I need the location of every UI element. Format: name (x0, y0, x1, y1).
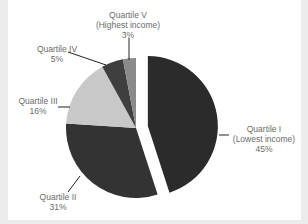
label-text: Quartile III (10, 96, 66, 106)
label-quartile-4: Quartile IV 5% (30, 44, 84, 64)
label-value: 45% (229, 144, 299, 154)
label-text: Quartile IV (30, 44, 84, 54)
label-quartile-1: Quartile I (Lowest income) 45% (229, 124, 299, 154)
label-quartile-5: Quartile V (Highest income) 3% (90, 10, 166, 40)
label-value: 16% (10, 106, 66, 116)
label-quartile-2: Quartile II 31% (28, 192, 88, 212)
slice-quartile-1 (148, 56, 218, 193)
label-text: (Highest income) (90, 20, 166, 30)
label-text: Quartile I (229, 124, 299, 134)
label-quartile-3: Quartile III 16% (10, 96, 66, 116)
label-value: 31% (28, 202, 88, 212)
label-value: 3% (90, 30, 166, 40)
slice-quartile-2 (66, 124, 158, 198)
label-value: 5% (30, 54, 84, 64)
leader-line-q2 (68, 176, 80, 192)
label-text: Quartile V (90, 10, 166, 20)
label-text: Quartile II (28, 192, 88, 202)
label-text: (Lowest income) (229, 134, 299, 144)
